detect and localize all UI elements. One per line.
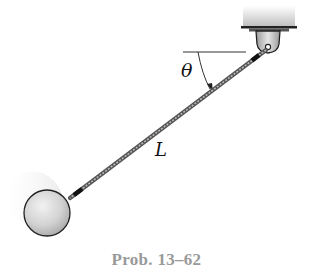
pendulum-rod bbox=[70, 50, 266, 198]
angle-theta-label: θ bbox=[181, 59, 192, 81]
length-l-label: L bbox=[155, 139, 167, 160]
pendulum-ball bbox=[0, 161, 75, 240]
angle-arc-arrow bbox=[198, 52, 213, 92]
pendulum-figure: θ L Prob. 13–62 bbox=[0, 0, 313, 272]
figure-caption: Prob. 13–62 bbox=[0, 250, 313, 270]
ceiling-support bbox=[241, 6, 297, 32]
